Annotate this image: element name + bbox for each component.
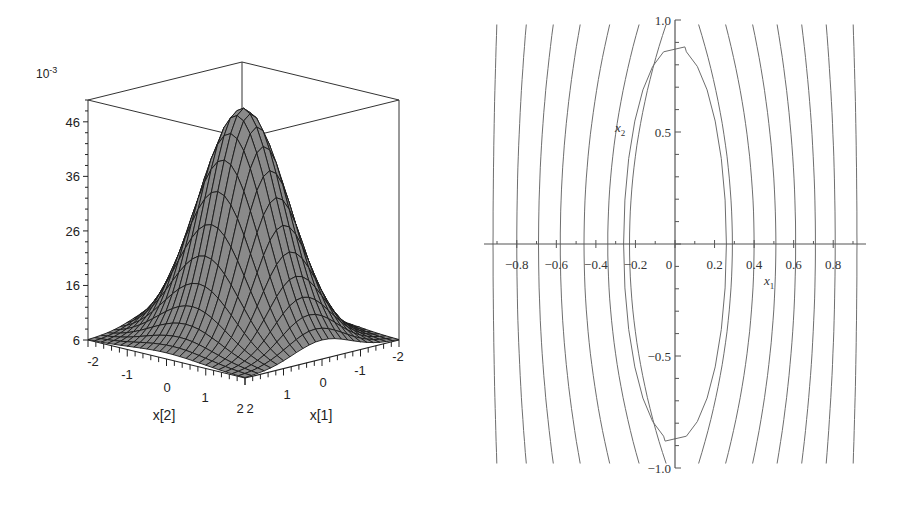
x-tick-label: 0.2: [706, 257, 722, 272]
y-tick-label: 0.5: [655, 125, 671, 140]
x1-tick-label: -2: [392, 349, 404, 364]
contour-plot: −0.8−0.6−0.4−0.200.20.40.60.81.00.5−0.5−…: [484, 13, 866, 476]
x-tick-label: −0.2: [624, 257, 648, 272]
x2-tick-label: 0: [163, 380, 170, 395]
z-tick-label: 6: [73, 333, 80, 348]
x1-tick-label: -1: [354, 363, 366, 378]
x2-axis-label: x[2]: [153, 407, 176, 423]
z-tick-label: 46: [66, 115, 80, 130]
surface-plot-3d: 61626364610-3-2-1012210-1-2x[2]x[1]: [36, 62, 404, 423]
x-tick-label: 0.8: [825, 257, 841, 272]
z-tick-label: 26: [66, 224, 80, 239]
x2-tick-label: 1: [201, 390, 208, 405]
x-tick-label: −0.8: [505, 257, 529, 272]
z-tick-label: 36: [66, 169, 80, 184]
x1-label-sub: 1: [770, 281, 775, 291]
x2-tick-label: -1: [121, 367, 133, 382]
z-scale-label: 10-3: [36, 65, 57, 81]
y-tick-label: 1.0: [655, 13, 671, 28]
x1-axis-label: x1: [763, 273, 774, 291]
x2-tick-label: -2: [87, 354, 99, 369]
box-edge: [88, 62, 399, 100]
z-tick-label: 16: [66, 278, 80, 293]
x1-tick-label: 1: [283, 387, 290, 402]
x1-axis-label: x[1]: [310, 407, 333, 423]
y-tick-label: −0.5: [647, 349, 671, 364]
x1-tick-label: 2: [246, 401, 253, 416]
z-scale-exp: -3: [49, 65, 57, 75]
x-tick-label: 0.4: [746, 257, 763, 272]
x2-label-sub: 2: [621, 128, 626, 138]
y-tick-label: −1.0: [647, 461, 671, 476]
z-scale-base: 10: [36, 67, 50, 81]
figure: 61626364610-3-2-1012210-1-2x[2]x[1] −0.8…: [0, 0, 905, 513]
x-tick-label: 0.6: [786, 257, 803, 272]
x1-tick-label: 0: [319, 375, 326, 390]
x-tick-label: −0.6: [545, 257, 569, 272]
x-tick-label: −0.4: [584, 257, 608, 272]
x2-tick-label: 2: [236, 401, 243, 416]
surface-mesh: [88, 108, 399, 377]
x-tick-label: 0: [666, 257, 673, 272]
